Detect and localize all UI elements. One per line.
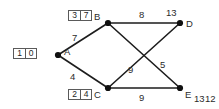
node-tag-cell: 4 [80, 90, 91, 99]
node-dot-d[interactable] [177, 20, 183, 26]
edge-weight-c-d: 9 [128, 65, 133, 75]
node-label-d: D [186, 19, 193, 29]
node-dot-e[interactable] [177, 85, 183, 91]
node-distance-e: 13 [194, 94, 205, 104]
graph-diagram: ABCDE 103724 748995 131312 [0, 0, 219, 109]
node-dot-c[interactable] [105, 85, 111, 91]
node-label-a: A [64, 47, 70, 57]
node-dot-a[interactable] [55, 52, 61, 58]
node-tag-box-c: 24 [68, 89, 92, 100]
node-tag-cell: 0 [25, 49, 36, 58]
node-tag-box-b: 37 [68, 10, 92, 21]
node-label-e: E [185, 90, 191, 100]
edge-weight-b-e: 5 [160, 60, 165, 70]
node-label-b: B [94, 12, 100, 22]
node-tag-cell: 1 [14, 49, 25, 58]
edge-weight-a-c: 4 [70, 72, 75, 82]
node-dot-b[interactable] [105, 20, 111, 26]
edge-a-c [58, 55, 108, 88]
node-distance-d: 13 [166, 8, 177, 18]
node-tag-cell: 7 [80, 11, 91, 20]
node-tag-cell: 2 [69, 90, 80, 99]
node-distance-e: 12 [205, 94, 216, 104]
node-tag-cell: 3 [69, 11, 80, 20]
edge-weight-c-e: 9 [139, 93, 144, 103]
node-label-c: C [94, 90, 101, 100]
edge-weight-b-d: 8 [139, 10, 144, 20]
edge-weight-a-b: 7 [72, 33, 77, 43]
node-tag-box-a: 10 [13, 48, 37, 59]
